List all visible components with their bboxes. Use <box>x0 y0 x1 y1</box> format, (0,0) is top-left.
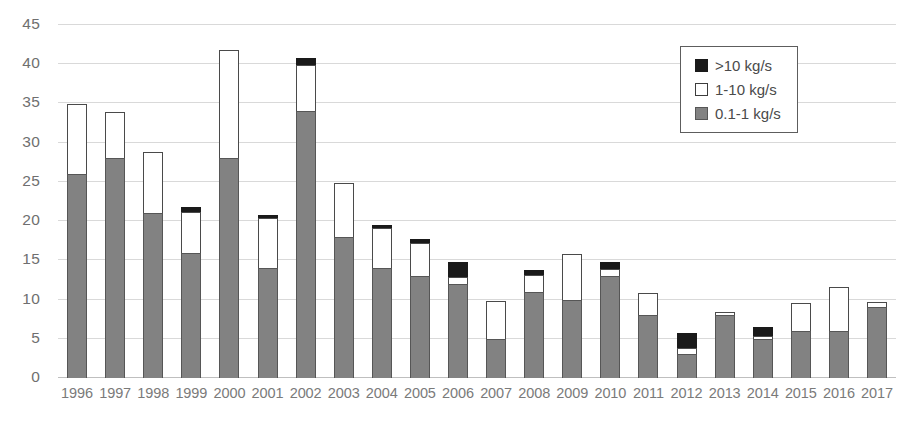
bar-stack[interactable] <box>258 215 278 377</box>
bar-stack[interactable] <box>143 153 163 377</box>
bar-segment-low <box>143 213 163 378</box>
bar-segment-mid <box>105 112 125 159</box>
bar-stack[interactable] <box>410 239 430 377</box>
bar-slot <box>172 24 210 377</box>
y-axis-tick-label: 20 <box>22 211 40 229</box>
bar-segment-mid <box>372 228 392 269</box>
x-axis-tick-label: 2013 <box>706 385 744 401</box>
x-axis-tick-label: 2003 <box>325 385 363 401</box>
bar-slot <box>96 24 134 377</box>
bar-segment-low <box>638 315 658 378</box>
x-axis-tick-label: 2000 <box>210 385 248 401</box>
bar-segment-low <box>524 292 544 378</box>
bar-segment-high <box>677 333 697 349</box>
bar-stack[interactable] <box>600 262 620 377</box>
bar-segment-mid <box>486 301 506 340</box>
bar-slot <box>553 24 591 377</box>
bar-stack[interactable] <box>486 302 506 377</box>
x-axis-tick-label: 2001 <box>248 385 286 401</box>
y-axis-tick-label: 25 <box>22 172 40 190</box>
legend-item[interactable]: 1-10 kg/s <box>695 77 781 101</box>
x-axis-tick-label: 1999 <box>172 385 210 401</box>
bar-segment-mid <box>219 50 239 160</box>
bar-segment-low <box>715 315 735 378</box>
bar-segment-low <box>562 300 582 378</box>
bar-segment-mid <box>67 104 87 175</box>
bar-segment-low <box>867 307 887 378</box>
bar-stack[interactable] <box>219 51 239 377</box>
x-axis-tick-label: 2009 <box>553 385 591 401</box>
bar-stack[interactable] <box>334 184 354 377</box>
bar-stack[interactable] <box>867 303 887 377</box>
bar-stack[interactable] <box>829 288 849 377</box>
bar-segment-low <box>372 268 392 378</box>
bar-segment-mid <box>410 243 430 277</box>
bar-slot <box>248 24 286 377</box>
bar-stack[interactable] <box>181 207 201 377</box>
stacked-bar-chart: 051015202530354045 199619971998199920002… <box>0 0 909 432</box>
gray-square-icon <box>695 107 708 120</box>
bar-slot <box>629 24 667 377</box>
bar-stack[interactable] <box>791 304 811 377</box>
bar-stack[interactable] <box>372 225 392 377</box>
y-axis-tick-label: 40 <box>22 54 40 72</box>
bar-slot <box>591 24 629 377</box>
bar-segment-mid <box>296 65 316 112</box>
bar-stack[interactable] <box>448 262 468 377</box>
bar-segment-low <box>67 174 87 378</box>
bar-slot <box>439 24 477 377</box>
bar-slot <box>325 24 363 377</box>
bar-segment-high <box>448 262 468 278</box>
bar-segment-low <box>181 253 201 379</box>
bar-segment-low <box>677 354 697 378</box>
bar-slot <box>820 24 858 377</box>
bar-segment-low <box>410 276 430 378</box>
bar-segment-mid <box>791 303 811 332</box>
bar-segment-low <box>219 158 239 378</box>
bar-slot <box>401 24 439 377</box>
x-axis-tick-label: 1998 <box>134 385 172 401</box>
y-axis-tick-label: 15 <box>22 250 40 268</box>
bar-stack[interactable] <box>638 294 658 377</box>
bar-segment-low <box>486 339 506 378</box>
x-axis-tick-label: 1996 <box>58 385 96 401</box>
bar-segment-low <box>753 339 773 378</box>
x-axis-tick-label: 2012 <box>668 385 706 401</box>
bar-stack[interactable] <box>296 58 316 377</box>
black-square-icon <box>695 59 708 72</box>
bar-segment-mid <box>181 212 201 254</box>
bar-stack[interactable] <box>753 327 773 377</box>
bar-stack[interactable] <box>105 113 125 377</box>
x-axis-tick-label: 2008 <box>515 385 553 401</box>
bar-stack[interactable] <box>715 313 735 377</box>
y-axis-tick-label: 30 <box>22 133 40 151</box>
bar-stack[interactable] <box>524 270 544 377</box>
bar-slot <box>287 24 325 377</box>
x-axis-tick-label: 1997 <box>96 385 134 401</box>
x-axis-tick-label: 2017 <box>858 385 896 401</box>
bar-segment-mid <box>562 254 582 301</box>
bar-segment-low <box>334 237 354 378</box>
bar-slot <box>210 24 248 377</box>
x-axis-tick-label: 2015 <box>782 385 820 401</box>
bar-stack[interactable] <box>562 255 582 378</box>
legend-item-label: 1-10 kg/s <box>715 81 777 98</box>
x-axis-tick-label: 2006 <box>439 385 477 401</box>
bar-segment-low <box>105 158 125 378</box>
bar-stack[interactable] <box>67 105 87 377</box>
x-axis-tick-label: 2010 <box>591 385 629 401</box>
x-axis-tick-label: 2004 <box>363 385 401 401</box>
bar-segment-mid <box>258 218 278 269</box>
y-axis-tick-label: 5 <box>31 329 40 347</box>
bar-slot <box>858 24 896 377</box>
legend-item[interactable]: >10 kg/s <box>695 53 781 77</box>
bar-segment-mid <box>829 287 849 332</box>
y-axis-tick-label: 10 <box>22 290 40 308</box>
x-axis-tick-label: 2002 <box>287 385 325 401</box>
bar-slot <box>515 24 553 377</box>
bar-stack[interactable] <box>677 333 697 377</box>
white-square-icon <box>695 83 708 96</box>
x-axis-tick-label: 2011 <box>629 385 667 401</box>
legend-item[interactable]: 0.1-1 kg/s <box>695 101 781 125</box>
bar-segment-low <box>829 331 849 378</box>
